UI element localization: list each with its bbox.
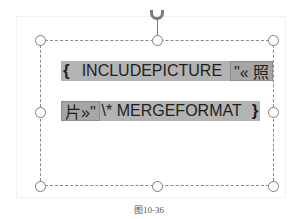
field-switch: \* MERGEFORMAT <box>102 102 242 120</box>
field-argument-start[interactable]: "« 照 <box>230 61 273 81</box>
field-code-line-1[interactable]: { INCLUDEPICTURE "« 照 <box>61 61 273 81</box>
resize-handle-bottom-center-icon[interactable] <box>152 181 163 192</box>
field-code-line-2[interactable]: 片»" \* MERGEFORMAT } <box>61 101 260 121</box>
resize-handle-top-right-icon[interactable] <box>268 35 279 46</box>
field-close-brace: } <box>252 101 259 121</box>
resize-handle-middle-left-icon[interactable] <box>35 107 46 118</box>
field-argument-end[interactable]: 片»" <box>61 101 100 121</box>
field-code-shading: { INCLUDEPICTURE <box>61 61 230 81</box>
resize-handle-bottom-right-icon[interactable] <box>268 181 279 192</box>
field-keyword: INCLUDEPICTURE <box>82 62 222 80</box>
resize-handle-top-center-icon[interactable] <box>152 35 163 46</box>
resize-handle-bottom-left-icon[interactable] <box>35 181 46 192</box>
rotate-stem <box>157 18 158 36</box>
field-open-brace: { <box>63 61 70 81</box>
figure-caption: 图10-36 <box>0 203 298 216</box>
resize-handle-middle-right-icon[interactable] <box>268 107 279 118</box>
resize-handle-top-left-icon[interactable] <box>35 35 46 46</box>
field-code-shading: \* MERGEFORMAT } <box>100 101 261 121</box>
